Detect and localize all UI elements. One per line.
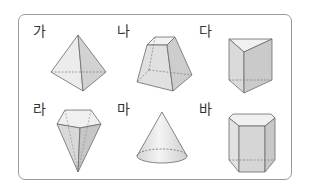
cone-icon [135, 110, 191, 166]
triangular-pyramid-icon [48, 33, 108, 93]
triangular-prism-icon [227, 37, 277, 95]
label-ba: 바 [199, 102, 212, 116]
label-ga: 가 [33, 24, 46, 38]
square-frustum-icon [135, 33, 195, 93]
label-na: 나 [117, 24, 130, 38]
label-ma: 마 [117, 102, 130, 116]
pentagonal-prism-icon [227, 112, 277, 174]
label-ra: 라 [33, 102, 46, 116]
label-da: 다 [199, 24, 212, 38]
inverted-pentagonal-pyramid-icon [55, 108, 105, 174]
